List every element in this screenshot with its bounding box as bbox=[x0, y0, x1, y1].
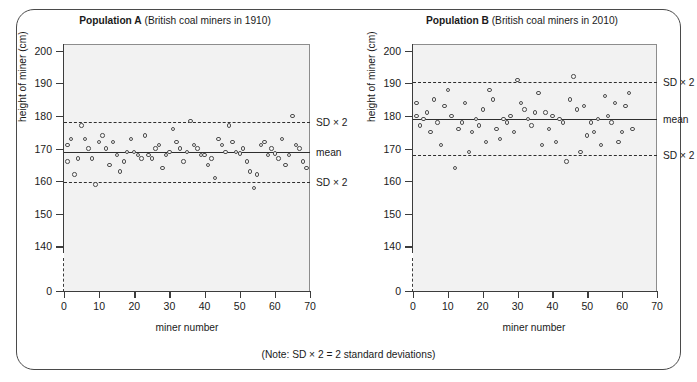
data-point bbox=[414, 101, 418, 105]
chart-title-b-bold: Population B bbox=[426, 15, 489, 26]
chart-title-b: Population B (British coal miners in 201… bbox=[347, 15, 697, 26]
data-point bbox=[529, 123, 533, 127]
data-point bbox=[107, 163, 111, 167]
chart-title-b-sub: (British coal miners in 2010) bbox=[492, 15, 618, 26]
y-tick-label-180: 180 bbox=[2, 110, 52, 122]
data-point bbox=[90, 156, 94, 160]
data-point bbox=[209, 156, 213, 160]
data-point bbox=[115, 153, 119, 157]
data-point bbox=[118, 169, 122, 173]
data-point bbox=[428, 130, 432, 134]
x-tick-40 bbox=[552, 291, 553, 298]
reference-label-mean: mean bbox=[663, 114, 688, 125]
reference-line-sd-upper bbox=[413, 82, 657, 83]
data-point bbox=[122, 159, 126, 163]
x-tick-0 bbox=[413, 291, 414, 298]
y-tick-label-150: 150 bbox=[351, 208, 401, 220]
x-axis-label-b: miner number bbox=[411, 322, 657, 333]
data-point bbox=[568, 97, 572, 101]
data-point bbox=[223, 150, 227, 154]
data-point bbox=[276, 156, 280, 160]
reference-label-sd-upper: SD × 2 bbox=[316, 117, 347, 128]
plot-area-b bbox=[413, 44, 657, 292]
x-tick-label-70: 70 bbox=[304, 300, 316, 312]
x-tick-label-40: 40 bbox=[547, 300, 559, 312]
x-tick-label-70: 70 bbox=[651, 300, 663, 312]
data-point bbox=[304, 166, 308, 170]
data-point bbox=[564, 159, 568, 163]
data-point bbox=[262, 140, 266, 144]
x-tick-70 bbox=[657, 291, 658, 298]
data-point bbox=[533, 110, 537, 114]
data-point bbox=[290, 114, 294, 118]
y-tick-label-140: 140 bbox=[2, 240, 52, 252]
data-point bbox=[150, 156, 154, 160]
x-tick-label-0: 0 bbox=[61, 300, 67, 312]
data-point bbox=[522, 107, 526, 111]
plot-area-a bbox=[64, 44, 310, 292]
data-point bbox=[623, 104, 627, 108]
chart-panel-population-a: Population A (British coal miners in 191… bbox=[0, 0, 350, 382]
reference-line-sd-lower bbox=[413, 155, 657, 156]
data-point bbox=[269, 146, 273, 150]
data-point bbox=[414, 114, 418, 118]
chart-title-a-sub: (British coal miners in 1910) bbox=[145, 15, 271, 26]
y-axis-break-b bbox=[412, 258, 413, 292]
data-point bbox=[195, 146, 199, 150]
y-tick-170 bbox=[405, 149, 413, 150]
data-point bbox=[153, 146, 157, 150]
x-tick-0 bbox=[64, 291, 65, 298]
data-point bbox=[100, 133, 104, 137]
x-tick-10 bbox=[99, 291, 100, 298]
data-point bbox=[160, 166, 164, 170]
x-tick-label-60: 60 bbox=[616, 300, 628, 312]
x-tick-label-50: 50 bbox=[581, 300, 593, 312]
data-point bbox=[174, 140, 178, 144]
data-point bbox=[167, 150, 171, 154]
y-tick-150 bbox=[405, 214, 413, 215]
x-tick-30 bbox=[169, 291, 170, 298]
data-point bbox=[435, 120, 439, 124]
data-point bbox=[609, 120, 613, 124]
x-axis-label-a: miner number bbox=[64, 322, 310, 333]
data-point bbox=[481, 107, 485, 111]
y-tick-190 bbox=[56, 83, 64, 84]
y-tick-180 bbox=[405, 116, 413, 117]
data-point bbox=[188, 119, 192, 123]
data-point bbox=[93, 182, 97, 186]
data-point bbox=[129, 137, 133, 141]
y-tick-170 bbox=[56, 149, 64, 150]
x-tick-label-60: 60 bbox=[269, 300, 281, 312]
chart-title-a-bold: Population A bbox=[79, 15, 141, 26]
x-tick-30 bbox=[518, 291, 519, 298]
y-tick-label-200: 200 bbox=[351, 45, 401, 57]
x-tick-60 bbox=[622, 291, 623, 298]
data-point bbox=[505, 120, 509, 124]
y-tick-label-150: 150 bbox=[2, 208, 52, 220]
x-tick-label-40: 40 bbox=[199, 300, 211, 312]
data-point bbox=[178, 146, 182, 150]
data-point bbox=[561, 120, 565, 124]
y-tick-label-160: 160 bbox=[2, 175, 52, 187]
x-tick-label-30: 30 bbox=[164, 300, 176, 312]
y-tick-140 bbox=[56, 246, 64, 247]
data-point bbox=[491, 97, 495, 101]
x-tick-20 bbox=[483, 291, 484, 298]
data-point bbox=[76, 156, 80, 160]
y-tick-140 bbox=[405, 246, 413, 247]
data-point bbox=[238, 151, 242, 155]
x-tick-label-20: 20 bbox=[477, 300, 489, 312]
y-tick-label-160: 160 bbox=[351, 175, 401, 187]
x-tick-10 bbox=[448, 291, 449, 298]
reference-label-mean: mean bbox=[316, 147, 341, 158]
data-point bbox=[245, 159, 249, 163]
x-tick-label-30: 30 bbox=[512, 300, 524, 312]
y-tick-180 bbox=[56, 116, 64, 117]
data-point bbox=[202, 153, 206, 157]
y-tick-label-0: 0 bbox=[351, 285, 401, 297]
y-tick-200 bbox=[405, 51, 413, 52]
data-point bbox=[494, 127, 498, 131]
data-point bbox=[104, 146, 108, 150]
reference-line-sd-upper bbox=[64, 122, 310, 123]
data-point bbox=[86, 146, 90, 150]
